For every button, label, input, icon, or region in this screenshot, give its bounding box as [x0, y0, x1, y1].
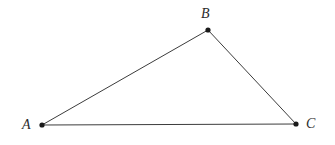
triangle-canvas [0, 0, 335, 145]
vertex-point-c [293, 121, 298, 126]
vertex-label-c: C [306, 117, 315, 131]
edge-ca [42, 124, 296, 125]
vertex-label-b: B [201, 7, 210, 21]
edge-bc [208, 30, 296, 124]
vertex-point-a [39, 122, 44, 127]
vertex-label-a: A [22, 118, 31, 132]
edge-ab [42, 30, 208, 125]
vertex-point-b [205, 27, 210, 32]
triangle-diagram: A B C [0, 0, 335, 145]
